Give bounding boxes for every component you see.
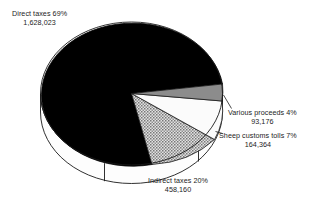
label-various-proceeds: Various proceeds 4% 93,176 (228, 108, 297, 127)
label-sheep-customs-tolls-value: 164,364 (219, 140, 297, 149)
label-various-proceeds-title: Various proceeds 4% (228, 108, 297, 117)
leader-line-various-proceeds (224, 95, 232, 109)
label-indirect-taxes: Indirect taxes 20% 458,160 (148, 176, 208, 195)
pie-chart-graphic (0, 0, 318, 203)
pie-chart: Direct taxes 69% 1,628,023 Various proce… (0, 0, 318, 203)
label-various-proceeds-value: 93,176 (228, 117, 297, 126)
label-direct-taxes-title: Direct taxes 69% (12, 9, 67, 18)
label-indirect-taxes-value: 458,160 (148, 185, 208, 194)
label-direct-taxes-value: 1,628,023 (12, 18, 67, 27)
label-direct-taxes: Direct taxes 69% 1,628,023 (12, 9, 67, 28)
label-sheep-customs-tolls-title: Sheep customs tolls 7% (219, 131, 297, 140)
pie-top-face (41, 22, 223, 166)
label-sheep-customs-tolls: Sheep customs tolls 7% 164,364 (219, 131, 297, 150)
label-indirect-taxes-title: Indirect taxes 20% (148, 176, 208, 185)
